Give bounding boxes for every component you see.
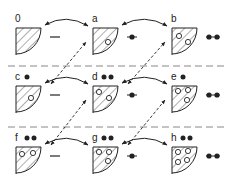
electron-dot-icon [214,153,219,158]
hole-icon [175,149,180,154]
hole-icon [96,149,101,154]
state-label-f: f [15,133,18,143]
state-shapes [16,28,220,174]
hole-icon [28,95,33,100]
state-0 [16,28,60,55]
hole-icon [185,148,190,153]
state-label-c: c [15,72,20,82]
state-d [93,75,137,114]
state-label-g: g [92,133,98,143]
electron-dot-icon [102,75,107,80]
state-label-e: e [171,72,177,82]
hole-icon [176,33,181,38]
hole-icon [96,89,101,94]
state-label-0: 0 [15,14,21,24]
state-c [16,75,60,114]
hole-icon [185,39,190,44]
electron-dot-icon [129,34,134,39]
state-label-b: b [171,14,177,24]
hole-icon [184,157,189,162]
state-a [93,28,137,55]
electron-dot-icon [109,75,114,80]
hole-icon [184,97,189,102]
hole-icon [175,88,180,93]
bidirectional-arrow-icon [122,19,167,26]
hole-icon [30,150,35,155]
state-h [172,136,220,175]
electron-dot-icon [25,136,30,141]
state-g [93,136,137,175]
hole-icon [19,151,24,156]
electron-dot-icon [32,136,37,141]
state-e [172,75,220,114]
electron-dot-icon [188,136,193,141]
electron-dot-icon [109,136,114,141]
state-f [16,136,60,175]
electron-dot-icon [129,92,134,97]
electron-dot-icon [102,136,107,141]
state-label-h: h [171,133,177,143]
state-label-a: a [92,14,98,24]
hole-icon [105,39,110,44]
electron-dot-icon [181,136,186,141]
hole-icon [106,149,111,154]
state-label-d: d [92,72,98,82]
hole-icon [175,159,180,164]
hole-icon [185,87,190,92]
electron-dot-icon [25,75,30,80]
energy-state-diagram: 0abcdefgh [0,0,232,181]
electron-dot-icon [181,75,186,80]
hole-icon [105,158,110,163]
electron-dot-icon [129,153,134,158]
hole-icon [106,95,111,100]
electron-dot-icon [214,92,219,97]
bidirectional-arrow-icon [45,19,88,26]
diagram-canvas [0,0,232,181]
state-b [172,28,220,55]
electron-dot-icon [214,34,219,39]
